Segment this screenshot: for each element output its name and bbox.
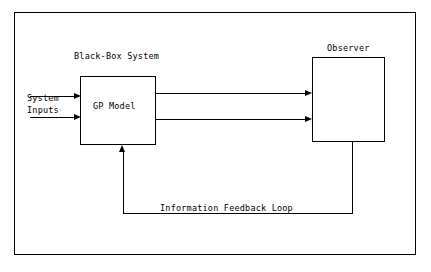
system-input-arrow-2-head-icon [74,114,81,120]
black-box-system-title: Black-Box System [74,51,159,62]
gp-model-label: GP Model [93,101,136,112]
observer-title: Observer [327,43,370,54]
output-arrow-1-line [156,93,308,94]
output-arrow-1-head-icon [305,90,312,96]
feedback-loop-arrow-head-icon [119,145,125,152]
output-arrow-2-line [156,119,308,120]
feedback-loop-label: Information Feedback Loop [160,203,293,214]
diagram-canvas: Black-Box System GP Model Observer Syste… [0,0,431,272]
system-input-arrow-1-head-icon [74,93,81,99]
output-arrow-2-head-icon [305,116,312,122]
feedback-loop-right-segment [352,142,353,214]
system-input-arrow-1-line [30,96,76,97]
feedback-loop-left-segment [123,152,124,213]
observer-node [312,57,385,142]
system-input-arrow-2-line [30,117,76,118]
